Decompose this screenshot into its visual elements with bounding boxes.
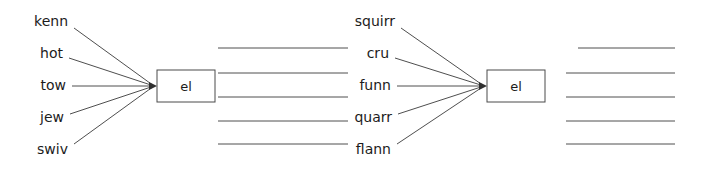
input-label: tow (40, 77, 66, 93)
input-edge (74, 86, 154, 144)
input-edge (397, 86, 484, 144)
input-edge (74, 28, 154, 86)
input-label: jew (39, 109, 64, 125)
output-lines-group (566, 48, 675, 144)
output-lines-group (218, 48, 348, 144)
diagram-svg: elkennhottowjewswivelsquirrcrufunnquarrf… (0, 0, 708, 169)
input-label: hot (40, 45, 63, 61)
node-box-label: el (510, 79, 522, 94)
diagram-unit: elkennhottowjewswiv (34, 13, 348, 157)
input-label: kenn (34, 13, 68, 29)
input-edge (395, 58, 484, 86)
arrowhead-icon (479, 82, 487, 90)
input-edge (398, 86, 484, 114)
diagram-units-group: elkennhottowjewswivelsquirrcrufunnquarrf… (34, 13, 675, 157)
input-label: funn (359, 77, 391, 93)
input-edges-group (395, 28, 484, 144)
input-edge (70, 86, 154, 114)
input-label: flann (356, 141, 391, 157)
input-label: squirr (355, 13, 395, 29)
input-edges-group (69, 28, 154, 144)
input-edge (401, 28, 484, 86)
input-label: quarr (354, 109, 392, 125)
node-box-label: el (180, 79, 192, 94)
input-label: swiv (37, 141, 68, 157)
diagram-canvas: elkennhottowjewswivelsquirrcrufunnquarrf… (0, 0, 708, 169)
input-edge (69, 58, 154, 86)
diagram-unit: elsquirrcrufunnquarrflann (354, 13, 675, 157)
input-label: cru (367, 45, 389, 61)
arrowhead-icon (149, 82, 157, 90)
